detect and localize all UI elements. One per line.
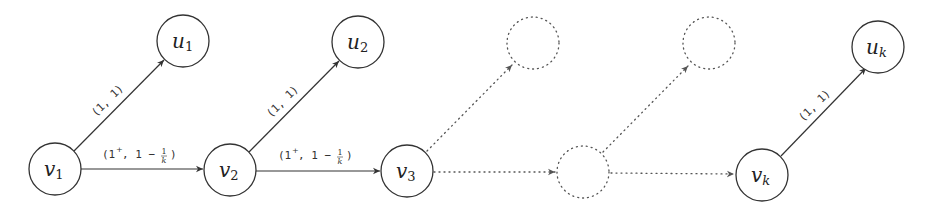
edge-label-v1-v2: (1 + , 1 − 1 k ) (102, 145, 177, 165)
node-u1: u1 (157, 15, 209, 67)
edge-label-v1-u1: (1, 1) (89, 82, 126, 119)
node-placeholder-top-1 (507, 17, 559, 69)
node-placeholder-bottom (557, 146, 609, 198)
node-uk: uk (852, 21, 904, 73)
node-vk: vk (736, 149, 788, 201)
svg-text:1: 1 (337, 148, 342, 157)
edge-label-v2-v3: (1 + , 1 − 1 k ) (278, 146, 353, 166)
svg-text:(1, 1): (1, 1) (264, 83, 301, 120)
edge-v2-u2 (249, 61, 339, 152)
edge-vk-uk (781, 68, 866, 156)
svg-text:(1, 1): (1, 1) (89, 82, 126, 119)
node-u2: u2 (332, 16, 384, 68)
node-v1: v1 (29, 143, 81, 195)
svg-text:(1, 1): (1, 1) (796, 87, 833, 124)
node-v3: v3 (381, 145, 433, 197)
edge-v3-dtop1 (427, 65, 512, 151)
edge-v1-u1 (74, 60, 164, 151)
graph-diagram: (1, 1) (1, 1) (1, 1) (1 + , 1 − 1 k ) (1… (0, 0, 945, 217)
svg-text:): ) (170, 148, 177, 161)
svg-text:(1: (1 (102, 148, 115, 161)
node-v2: v2 (204, 144, 256, 196)
node-placeholder-top-2 (683, 17, 735, 69)
svg-text:k: k (162, 156, 167, 165)
edge-dbottom-dtop2 (603, 66, 688, 152)
svg-text:): ) (346, 149, 353, 162)
edge-dbottom-vk (611, 173, 734, 174)
edge-label-vk-uk: (1, 1) (796, 87, 833, 124)
svg-text:k: k (338, 157, 343, 166)
svg-text:, 1 −: , 1 − (122, 148, 155, 161)
svg-text:1: 1 (161, 147, 166, 156)
svg-text:, 1 −: , 1 − (298, 149, 331, 162)
svg-text:(1: (1 (278, 149, 291, 162)
edge-label-v2-u2: (1, 1) (264, 83, 301, 120)
